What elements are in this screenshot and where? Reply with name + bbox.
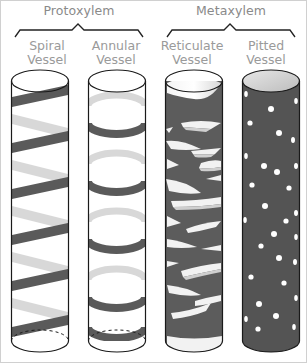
annular-vessel <box>88 95 145 338</box>
xylem-vessels-diagram: Protoxylem Metaxylem Spiral Vessel Annul… <box>0 0 307 363</box>
pitted-vessel <box>243 70 300 352</box>
spiral-vessel <box>12 85 68 337</box>
protoxylem-brace <box>15 24 143 37</box>
metaxylem-brace <box>167 24 295 37</box>
reticulate-vessel <box>165 70 223 353</box>
diagram-artwork <box>1 1 306 362</box>
